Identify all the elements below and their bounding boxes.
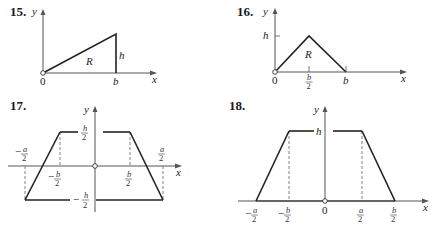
origin-label: 0 [40, 75, 46, 87]
neg-b-sign: − [48, 170, 54, 182]
y-axis-label: y [83, 103, 89, 115]
origin-marker [323, 199, 328, 204]
b-label: b [343, 74, 349, 86]
y-axis-label: y [262, 5, 268, 17]
figures-canvas: 15. y x R h 0 b 16. y x h R 0 b [0, 0, 434, 227]
y-arrow-icon [323, 106, 328, 112]
neg-a-sign: − [15, 145, 21, 157]
neg-a-den: 2 [22, 153, 26, 163]
half-b-denominator: 2 [307, 81, 311, 91]
pos-b-den: 2 [391, 214, 395, 224]
h-label: h [316, 125, 322, 137]
neg-b-sign: − [278, 207, 284, 219]
figure-17: 17. y x h 2 − h 2 − a 2 − b [8, 98, 182, 212]
figure-18: 18. y x h 0 − a 2 − b 2 a 2 b 2 [229, 98, 429, 224]
figure-number: 16. [237, 4, 253, 19]
triangle-shape [43, 34, 116, 73]
height-label: h [119, 49, 125, 61]
figure-number: 15. [10, 4, 26, 19]
x-axis-label: x [151, 73, 157, 85]
figure-15: 15. y x R h 0 b [10, 4, 157, 87]
left-side [256, 131, 289, 201]
region-label: R [85, 55, 93, 67]
region-label: R [304, 48, 312, 60]
x-axis-label: x [400, 72, 406, 84]
y-axis-label: y [313, 103, 319, 115]
b-label: b [113, 75, 119, 87]
y-arrow-icon [41, 9, 46, 15]
pos-b-den: 2 [126, 178, 130, 188]
figure-16: 16. y x h R 0 b 2 b [237, 4, 407, 91]
figure-number: 17. [10, 98, 26, 113]
origin-label: 0 [322, 204, 328, 216]
top-label-den: 2 [82, 132, 86, 142]
bottom-label-sign: − [73, 193, 79, 205]
origin-label: 0 [272, 74, 278, 86]
origin-marker [93, 164, 98, 169]
right-side [362, 131, 395, 201]
y-arrow-icon [273, 8, 278, 14]
x-axis-label: x [175, 166, 181, 178]
neg-a-den: 2 [252, 214, 256, 224]
h-label: h [263, 29, 269, 41]
neg-b-den: 2 [55, 178, 59, 188]
figure-number: 18. [229, 98, 245, 113]
bottom-label-den: 2 [83, 200, 87, 210]
pos-a-den: 2 [358, 214, 362, 224]
neg-b-den: 2 [285, 214, 289, 224]
bottom-label-num: h [84, 190, 88, 200]
y-arrow-icon [93, 106, 98, 112]
y-axis-label: y [31, 5, 37, 17]
neg-a-sign: − [245, 207, 251, 219]
x-axis-label: x [422, 201, 428, 213]
pos-a-den: 2 [159, 153, 163, 163]
